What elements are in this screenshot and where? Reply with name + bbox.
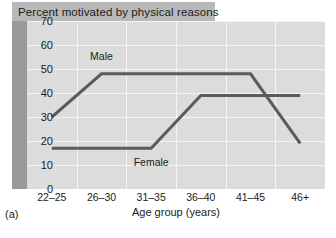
figure-panel: Percent motivated by physical reasons 01… <box>0 0 336 238</box>
series-label-female: Female <box>134 156 169 168</box>
left-rail-decoration <box>12 21 27 189</box>
series-line-female <box>52 95 300 148</box>
x-tick-label: 31–35 <box>137 191 166 203</box>
y-tick-label: 20 <box>27 135 53 147</box>
y-tick-label: 70 <box>27 15 53 27</box>
y-tick-label: 60 <box>27 39 53 51</box>
y-tick-label: 50 <box>27 63 53 75</box>
x-tick-label: 36–40 <box>186 191 215 203</box>
y-tick-label: 30 <box>27 111 53 123</box>
x-axis-title: Age group (years) <box>27 206 325 218</box>
plot-area <box>27 21 325 189</box>
series-label-male: Male <box>90 50 113 62</box>
series-lines <box>27 21 325 189</box>
y-tick-label: 10 <box>27 159 53 171</box>
panel-letter: (a) <box>5 208 18 220</box>
x-tick-label: 22–25 <box>37 191 66 203</box>
x-tick-label: 46+ <box>291 191 309 203</box>
x-tick-label: 41–45 <box>236 191 265 203</box>
series-line-male <box>52 74 300 144</box>
x-tick-label: 26–30 <box>87 191 116 203</box>
y-tick-label: 40 <box>27 87 53 99</box>
